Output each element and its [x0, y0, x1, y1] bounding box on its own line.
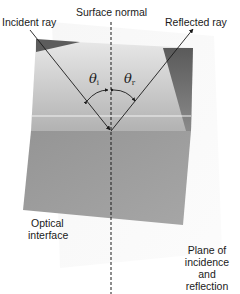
- incidence-angle-symbol: θ: [89, 71, 97, 86]
- plane-of-incidence-label: Plane of incidence and reflection: [182, 244, 232, 292]
- surface-normal-label: Surface normal: [76, 6, 147, 18]
- incidence-angle-subscript: i: [97, 79, 99, 87]
- incident-ray-label: Incident ray: [2, 16, 56, 28]
- reflection-angle-subscript: r: [132, 79, 135, 87]
- reflection-angle-label: θr: [124, 71, 135, 87]
- optical-interface-label: Optical interface: [28, 217, 68, 241]
- reflected-ray-label: Reflected ray: [165, 16, 227, 28]
- incidence-angle-label: θi: [89, 71, 99, 87]
- plane-label-line3: and: [182, 268, 232, 280]
- plane-label-line1: Plane of: [182, 244, 232, 256]
- plane-label-line2: incidence: [182, 256, 232, 268]
- reflection-angle-symbol: θ: [124, 71, 132, 86]
- optical-interface-line2: interface: [28, 229, 68, 241]
- optical-interface-line1: Optical: [28, 217, 68, 229]
- lower-medium: [23, 131, 191, 225]
- plane-label-line4: reflection: [182, 280, 232, 292]
